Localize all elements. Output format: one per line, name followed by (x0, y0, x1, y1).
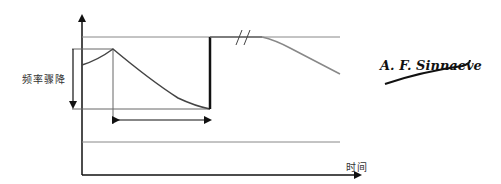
y-axis-label: 频率骤降 (22, 71, 66, 86)
author-signature: A. F. Sinnaeve (380, 58, 482, 73)
frequency-curve (82, 49, 210, 109)
x-axis-label: 时间 (346, 159, 368, 174)
decline-curve (262, 37, 340, 74)
frequency-drop-diagram (0, 0, 501, 184)
